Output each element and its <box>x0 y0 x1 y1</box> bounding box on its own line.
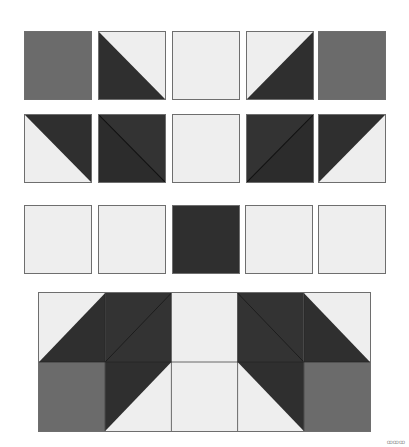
half-square-triangle-icon <box>99 115 165 182</box>
piece-r2-c4-dark-dark-diagonal <box>246 114 314 183</box>
half-square-triangle-icon <box>247 115 313 182</box>
piece-r1-c5-medium-square <box>318 31 386 100</box>
piece-r3-c2-light-square <box>98 205 166 274</box>
piece-r2-c3-light-square <box>172 114 240 183</box>
half-square-triangle-icon <box>99 32 165 99</box>
piece-r3-c5-light-square <box>318 205 386 274</box>
quilt-block-diagram-icon <box>39 293 370 431</box>
piece-r2-c1-hst-dark-top-right <box>24 114 92 183</box>
half-square-triangle-icon <box>319 115 385 182</box>
piece-r2-c5-hst-dark-top-left <box>318 114 386 183</box>
half-square-triangle-icon <box>25 115 91 182</box>
half-square-triangle-icon <box>247 32 313 99</box>
piece-r1-c1-medium-square <box>24 31 92 100</box>
piece-r3-c3-dark-square <box>172 205 240 274</box>
piece-r1-c4-hst-dark-bottom-right <box>246 31 314 100</box>
piece-r1-c3-light-square <box>172 31 240 100</box>
piece-r1-c2-hst-dark-bottom-left <box>98 31 166 100</box>
piece-r3-c1-light-square <box>24 205 92 274</box>
watermark: ꝏꝏꝏ <box>387 438 405 445</box>
piece-r2-c2-dark-dark-diagonal <box>98 114 166 183</box>
piece-r3-c4-light-square <box>245 205 313 274</box>
assembled-quilt-block <box>38 292 371 432</box>
